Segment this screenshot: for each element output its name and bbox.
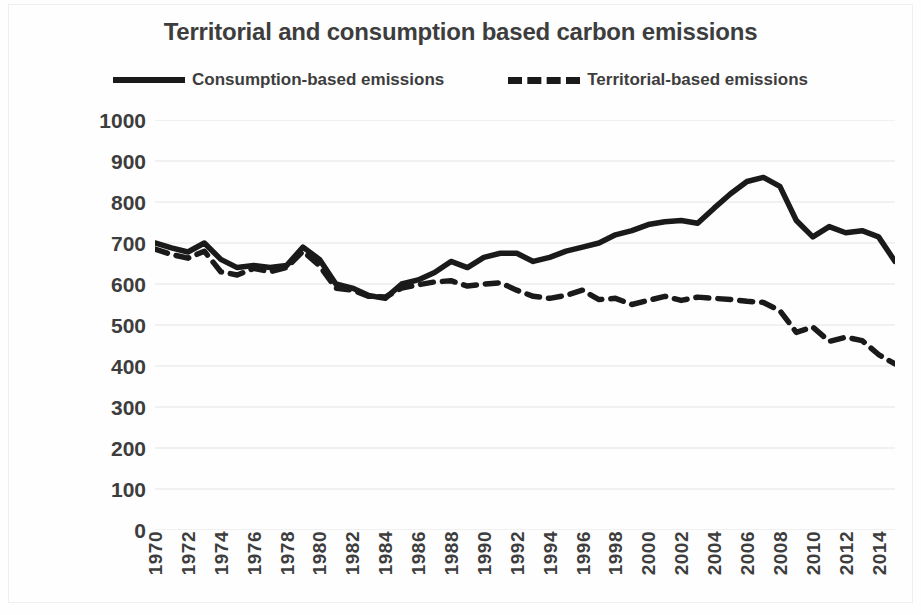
x-tick-label: 2012	[836, 531, 858, 575]
legend-item-consumption-based[interactable]: Consumption-based emissions	[113, 70, 444, 90]
plot-svg	[155, 120, 895, 530]
x-tick-label: 1984	[375, 531, 397, 575]
y-tick-label: 900	[66, 151, 146, 172]
x-tick-label: 2000	[638, 531, 660, 575]
x-tick-label: 1982	[342, 531, 364, 575]
y-tick-label: 1000	[66, 110, 146, 131]
x-tick-label: 1986	[408, 531, 430, 575]
y-tick-label: 400	[66, 356, 146, 377]
x-tick-label: 1972	[178, 531, 200, 575]
carbon-emissions-chart: Territorial and consumption based carbon…	[0, 0, 921, 615]
y-tick-label: 700	[66, 233, 146, 254]
x-tick-label: 1992	[507, 531, 529, 575]
y-axis-tick-labels: 10009008007006005004003002001000	[62, 0, 146, 615]
x-tick-label: 1988	[441, 531, 463, 575]
legend-line-dashed-icon	[508, 77, 580, 84]
x-tick-label: 1976	[244, 531, 266, 575]
y-tick-label: 100	[66, 479, 146, 500]
x-tick-label: 1980	[309, 531, 331, 575]
x-tick-label: 2002	[671, 531, 693, 575]
x-tick-label: 1990	[474, 531, 496, 575]
series-line-consumption	[155, 177, 895, 298]
x-tick-label: 2004	[704, 531, 726, 575]
y-tick-label: 800	[66, 192, 146, 213]
x-tick-label: 2008	[770, 531, 792, 575]
x-tick-label: 1970	[145, 531, 167, 575]
x-tick-label: 1996	[573, 531, 595, 575]
x-tick-label: 1998	[605, 531, 627, 575]
x-tick-label: 1974	[211, 531, 233, 575]
x-tick-label: 2006	[737, 531, 759, 575]
y-tick-label: 600	[66, 274, 146, 295]
y-tick-label: 0	[66, 520, 146, 541]
legend-label-consumption-based: Consumption-based emissions	[192, 70, 444, 90]
x-tick-label: 1994	[540, 531, 562, 575]
y-tick-label: 200	[66, 438, 146, 459]
y-tick-label: 500	[66, 315, 146, 336]
plot-area	[155, 120, 895, 530]
legend-item-territorial-based[interactable]: Territorial-based emissions	[508, 70, 808, 90]
x-tick-label: 1978	[277, 531, 299, 575]
x-tick-label: 2010	[803, 531, 825, 575]
y-tick-label: 300	[66, 397, 146, 418]
legend-label-territorial-based: Territorial-based emissions	[587, 70, 808, 90]
x-axis-tick-labels: 1970197219741976197819801982198419861988…	[155, 531, 895, 611]
x-tick-label: 2014	[869, 531, 891, 575]
